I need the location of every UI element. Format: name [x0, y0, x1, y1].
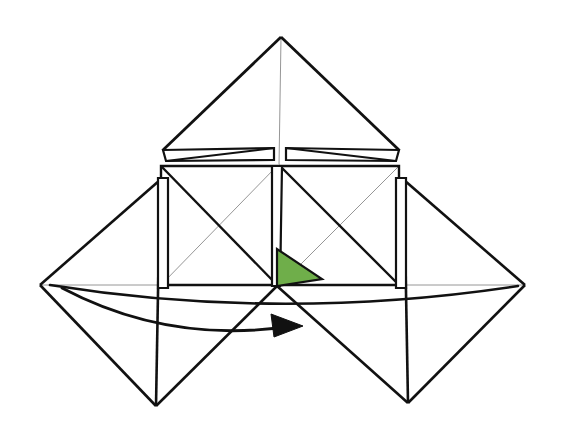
right-vertical-flap-strip [396, 178, 406, 288]
origami-diagram-svg [0, 0, 564, 421]
figure-canvas [0, 0, 564, 421]
left-vertical-flap-strip [158, 178, 168, 288]
